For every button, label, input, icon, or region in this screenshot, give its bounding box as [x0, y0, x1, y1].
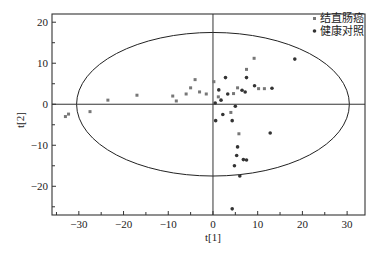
- data-point: [205, 92, 208, 95]
- data-point: [238, 174, 242, 178]
- data-point: [194, 78, 197, 81]
- data-point: [230, 207, 234, 211]
- data-point: [198, 90, 201, 93]
- zero-reference-lines: [52, 14, 365, 215]
- data-point: [240, 88, 244, 92]
- data-point: [64, 115, 67, 118]
- x-axis-title: t[1]: [205, 231, 221, 243]
- y-tick-label: 20: [37, 16, 49, 28]
- data-point: [212, 80, 215, 83]
- data-point: [270, 86, 274, 90]
- data-points: [64, 57, 297, 211]
- data-point: [234, 104, 238, 108]
- y-tick-label: −10: [31, 139, 49, 151]
- data-point: [242, 158, 246, 162]
- data-point: [214, 119, 218, 123]
- data-point: [293, 57, 297, 61]
- x-tick-label: 10: [252, 218, 264, 230]
- square-marker-icon: [313, 17, 316, 20]
- x-tick-label: −10: [160, 218, 178, 230]
- data-point: [253, 84, 257, 88]
- data-point: [257, 87, 260, 90]
- data-point: [236, 145, 240, 149]
- data-point: [236, 86, 239, 89]
- data-point: [224, 76, 228, 80]
- scatter-chart: −30−20−100102030 −20−1001020 t[1] t[2] 结…: [0, 0, 380, 255]
- legend: 结直肠癌 健康对照: [313, 11, 364, 38]
- data-point: [263, 87, 266, 90]
- data-point: [233, 164, 237, 168]
- data-point: [245, 76, 249, 80]
- data-point: [189, 86, 192, 89]
- data-point: [237, 132, 240, 135]
- data-point: [243, 90, 247, 94]
- plot-border: [52, 14, 365, 215]
- series-healthy: [213, 57, 296, 210]
- legend-label: 结直肠癌: [320, 11, 364, 25]
- data-point: [232, 92, 235, 95]
- data-point: [245, 158, 249, 162]
- y-axis-title: t[2]: [14, 112, 26, 128]
- data-point: [171, 95, 174, 98]
- x-tick-label: 0: [210, 218, 216, 230]
- data-point: [106, 99, 109, 102]
- data-point: [235, 154, 239, 158]
- data-point: [135, 94, 138, 97]
- plot-frame: [52, 14, 365, 215]
- data-point: [230, 119, 234, 123]
- legend-item-cancer: 结直肠癌: [313, 11, 364, 25]
- legend-item-healthy: 健康对照: [313, 24, 364, 38]
- data-point: [229, 111, 232, 114]
- legend-label: 健康对照: [320, 24, 364, 38]
- x-tick-label: −20: [115, 218, 133, 230]
- data-point: [67, 113, 70, 116]
- circle-marker-icon: [313, 29, 317, 33]
- data-point: [219, 98, 223, 102]
- data-point: [217, 95, 220, 98]
- y-tick-label: 10: [37, 57, 49, 69]
- data-point: [245, 68, 248, 71]
- data-point: [221, 113, 225, 117]
- data-point: [217, 88, 221, 92]
- x-tick-label: 20: [297, 218, 309, 230]
- data-point: [175, 99, 178, 102]
- x-tick-label: −30: [70, 218, 88, 230]
- data-point: [253, 57, 256, 60]
- data-point: [185, 92, 188, 95]
- y-tick-label: 0: [43, 98, 49, 110]
- data-point: [268, 131, 272, 135]
- data-point: [89, 110, 92, 113]
- data-point: [226, 92, 230, 96]
- data-point: [213, 101, 217, 105]
- y-tick-label: −20: [31, 180, 49, 192]
- x-axis-ticks: −30−20−100102030: [56, 211, 353, 230]
- x-tick-label: 30: [342, 218, 354, 230]
